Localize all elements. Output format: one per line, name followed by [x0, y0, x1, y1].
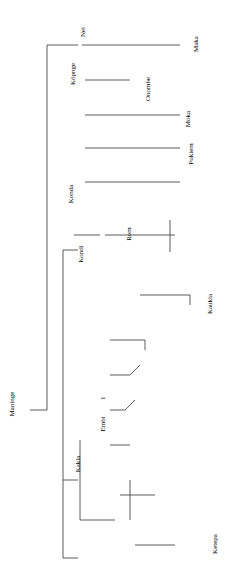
- labels-layer: Nei Köpnge Maka Onombe Moka Pukiem Konda…: [0, 0, 247, 585]
- label-kaukla: Kaukla: [206, 294, 214, 314]
- label-ketepa: Ketepa: [211, 534, 219, 554]
- label-embi: Embi: [99, 416, 107, 431]
- label-konda: Konda: [67, 185, 75, 204]
- label-nei: Nei: [79, 27, 87, 37]
- label-maninge: Maninge: [8, 392, 16, 417]
- label-kopnge: Köpnge: [69, 63, 77, 85]
- label-kakla: Kakla: [74, 456, 82, 473]
- label-moka1: Moka: [184, 111, 192, 127]
- label-maka: Maka: [192, 36, 200, 52]
- label-onombe: Onombe: [144, 77, 152, 101]
- label-kondi: Kondi: [77, 245, 85, 263]
- label-pukiem: Pukiem: [187, 143, 195, 164]
- label-rom: Rom: [125, 227, 133, 241]
